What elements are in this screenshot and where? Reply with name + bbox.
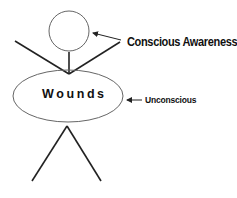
right-arm-line <box>69 42 120 74</box>
wounds-label: Wounds <box>42 87 107 101</box>
stick-figure-diagram <box>0 0 237 198</box>
left-arm-line <box>15 41 69 74</box>
head-circle <box>49 11 89 51</box>
conscious-arrow-icon <box>93 33 121 40</box>
right-leg-line <box>67 126 101 181</box>
unconscious-label: Unconscious <box>145 95 196 105</box>
left-leg-line <box>32 126 67 181</box>
conscious-awareness-label: Conscious Awareness <box>127 35 237 49</box>
